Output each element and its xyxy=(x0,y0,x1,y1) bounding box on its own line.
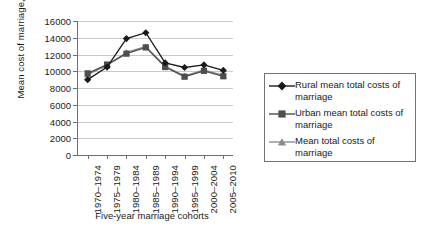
series-layer xyxy=(77,21,233,156)
legend-item: Mean total costs of marriage xyxy=(269,135,411,160)
x-tick-label: 1990–1994 xyxy=(169,165,180,213)
x-tick-label: 2005–2010 xyxy=(227,165,238,213)
legend-label: Rural mean total costs of marriage xyxy=(295,79,411,102)
x-tick-label: 1995–1999 xyxy=(189,165,200,213)
diamond-marker xyxy=(142,29,149,36)
x-axis-title: Five-year marriage cohorts xyxy=(66,210,238,221)
plot-area: 0200040006000800010000120001400016000 19… xyxy=(77,21,232,155)
x-tick-label: 1980–1984 xyxy=(130,165,141,213)
y-axis-title: Mean cost of marriage, 2010 JD xyxy=(15,0,26,102)
y-tick-label: 14000 xyxy=(45,33,71,42)
square-marker-icon xyxy=(269,108,295,120)
legend-label: Urban mean total costs of marriage xyxy=(295,107,411,130)
square-marker xyxy=(85,70,91,76)
chart-legend: Rural mean total costs of marriage Urban… xyxy=(264,73,416,162)
legend-item: Rural mean total costs of marriage xyxy=(269,79,411,104)
x-tick-label: 1970–1974 xyxy=(92,165,103,213)
y-tick-label: 2000 xyxy=(50,134,71,143)
y-tick-label: 12000 xyxy=(45,50,71,59)
y-tick-label: 4000 xyxy=(50,117,71,126)
legend-item: Urban mean total costs of marriage xyxy=(269,107,411,132)
y-tick-label: 10000 xyxy=(45,67,71,76)
x-tick-label: 1985–1989 xyxy=(150,165,161,213)
square-marker xyxy=(181,74,187,80)
diamond-marker-icon xyxy=(269,80,295,92)
square-marker xyxy=(220,73,226,79)
chart-figure: Mean cost of marriage, 2010 JD 020004000… xyxy=(0,0,422,242)
triangle-marker-icon xyxy=(269,136,295,148)
diamond-marker xyxy=(123,35,130,42)
x-tick-label: 1975–1979 xyxy=(111,165,122,213)
y-tick-label: 8000 xyxy=(50,84,71,93)
diamond-marker xyxy=(200,61,207,68)
y-tick-label: 0 xyxy=(66,151,71,160)
legend-label: Mean total costs of marriage xyxy=(295,135,411,158)
x-tick-label: 2000–2004 xyxy=(208,165,219,213)
square-marker xyxy=(201,68,207,74)
diamond-marker xyxy=(220,67,227,74)
diamond-marker xyxy=(181,64,188,71)
square-marker xyxy=(143,44,149,50)
y-tick-label: 16000 xyxy=(45,17,71,26)
square-marker xyxy=(123,51,129,57)
y-tick-label: 6000 xyxy=(50,100,71,109)
